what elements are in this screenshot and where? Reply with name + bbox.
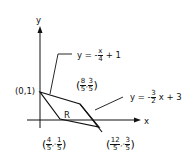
right-line-leader	[95, 97, 123, 110]
fraction: 32	[151, 90, 156, 105]
upper-line-equation: y = -x4 + 1	[77, 48, 121, 63]
y-axis-arrow-icon	[38, 26, 43, 33]
right-line-equation: y = -32 x + 3	[130, 90, 182, 105]
vertex-4-5-neg1-5-label: (45,-15)	[42, 137, 66, 152]
diagram-canvas	[0, 0, 196, 159]
vertex-8-5-3-5-label: (85,35)	[76, 78, 98, 93]
upper-line-leader	[50, 54, 72, 94]
vertex-0-1-label: (0,1)	[15, 87, 35, 96]
region-label: R	[64, 111, 70, 120]
vertex-12-5-neg3-5-label: (125,-35)	[106, 137, 135, 152]
x-axis-arrow-icon	[134, 118, 141, 123]
fraction: x4	[98, 48, 103, 63]
x-axis-label: x	[144, 117, 149, 126]
y-axis-label: y	[36, 16, 41, 25]
